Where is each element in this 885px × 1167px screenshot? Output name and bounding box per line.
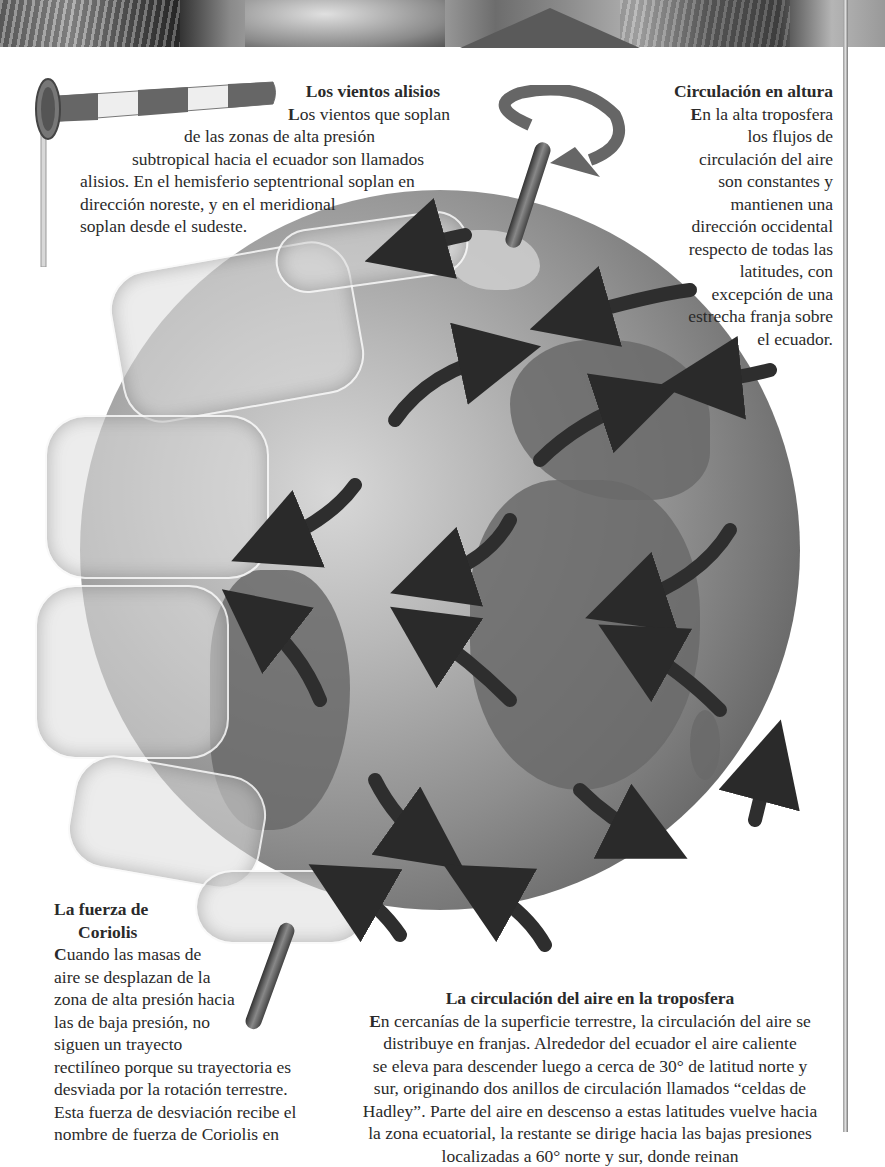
section-body: Cuando las masas de aire se desplazan de… (54, 943, 354, 1146)
wind-arrow (625, 530, 730, 605)
wind-arrow (270, 485, 355, 545)
wind-arrow (755, 760, 770, 820)
wind-arrow (395, 355, 500, 420)
section-title: La circulación del aire en la troposfera (345, 987, 835, 1010)
section-vientos-alisios: Los vientos alisios Los vientos que sopl… (80, 80, 450, 238)
wind-arrow (375, 780, 430, 845)
section-body: En la alta troposfera los flujos de circ… (605, 103, 833, 351)
wind-arrow (425, 630, 510, 700)
section-fuerza-coriolis: La fuerza de Coriolis Cuando las masas d… (54, 898, 354, 1146)
wind-arrow (480, 885, 545, 945)
wind-arrow (700, 370, 770, 382)
section-title: La fuerza de Coriolis (54, 898, 354, 943)
section-body: Los vientos que soplan de las zonas de a… (80, 103, 450, 238)
wind-arrow (635, 645, 720, 710)
section-title: Los vientos alisios (80, 80, 440, 103)
section-body: En cercanías de la superficie terrestre,… (345, 1010, 835, 1167)
wind-arrow (255, 615, 320, 700)
section-circulacion-troposfera: La circulación del aire en la troposfera… (345, 987, 835, 1167)
section-circulacion-altura: Circulación en altura En la alta troposf… (605, 80, 833, 350)
wind-arrow (580, 790, 650, 840)
wind-arrow (540, 400, 640, 460)
wind-arrow (430, 520, 510, 580)
section-title: Circulación en altura (605, 80, 833, 103)
